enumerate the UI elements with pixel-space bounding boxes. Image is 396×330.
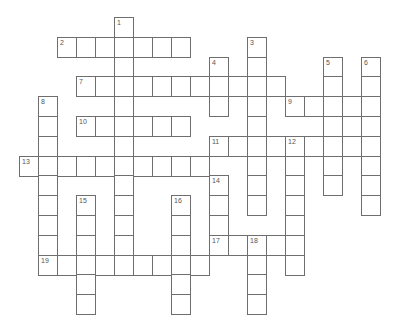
crossword-cell[interactable] xyxy=(76,37,96,58)
crossword-cell[interactable] xyxy=(285,255,305,276)
crossword-cell[interactable] xyxy=(209,76,229,97)
crossword-cell[interactable] xyxy=(285,215,305,236)
crossword-cell[interactable]: 15 xyxy=(76,195,96,216)
crossword-cell[interactable] xyxy=(76,274,96,295)
crossword-cell[interactable] xyxy=(38,116,58,137)
crossword-cell[interactable] xyxy=(361,136,381,157)
crossword-cell[interactable] xyxy=(266,235,286,256)
crossword-cell[interactable]: 16 xyxy=(171,195,191,216)
crossword-cell[interactable] xyxy=(133,156,153,177)
crossword-cell[interactable] xyxy=(152,255,172,276)
crossword-cell[interactable] xyxy=(76,215,96,236)
crossword-cell[interactable] xyxy=(76,235,96,256)
crossword-cell[interactable]: 8 xyxy=(38,96,58,117)
crossword-cell[interactable] xyxy=(133,116,153,137)
crossword-cell[interactable] xyxy=(114,96,134,117)
crossword-cell[interactable] xyxy=(38,175,58,196)
crossword-cell[interactable] xyxy=(38,195,58,216)
crossword-cell[interactable] xyxy=(171,116,191,137)
crossword-cell[interactable] xyxy=(95,76,115,97)
crossword-cell[interactable] xyxy=(190,156,210,177)
crossword-cell[interactable] xyxy=(285,195,305,216)
crossword-cell[interactable] xyxy=(171,294,191,315)
crossword-cell[interactable] xyxy=(133,37,153,58)
crossword-cell[interactable] xyxy=(323,76,343,97)
crossword-cell[interactable] xyxy=(190,76,210,97)
crossword-cell[interactable] xyxy=(171,37,191,58)
crossword-cell[interactable]: 9 xyxy=(285,96,305,117)
crossword-cell[interactable] xyxy=(152,156,172,177)
crossword-cell[interactable] xyxy=(114,116,134,137)
crossword-cell[interactable]: 3 xyxy=(247,37,267,58)
crossword-cell[interactable] xyxy=(133,76,153,97)
crossword-cell[interactable] xyxy=(171,215,191,236)
crossword-cell[interactable]: 18 xyxy=(247,235,267,256)
crossword-cell[interactable] xyxy=(171,274,191,295)
crossword-cell[interactable] xyxy=(323,116,343,137)
crossword-cell[interactable] xyxy=(114,235,134,256)
crossword-cell[interactable] xyxy=(247,195,267,216)
crossword-cell[interactable]: 17 xyxy=(209,235,229,256)
crossword-cell[interactable] xyxy=(361,156,381,177)
crossword-cell[interactable] xyxy=(152,76,172,97)
crossword-cell[interactable] xyxy=(114,136,134,157)
crossword-cell[interactable]: 14 xyxy=(209,175,229,196)
crossword-cell[interactable]: 5 xyxy=(323,57,343,78)
crossword-cell[interactable] xyxy=(76,255,96,276)
crossword-cell[interactable] xyxy=(304,136,324,157)
crossword-cell[interactable] xyxy=(114,255,134,276)
crossword-cell[interactable] xyxy=(323,136,343,157)
crossword-cell[interactable] xyxy=(95,116,115,137)
crossword-cell[interactable]: 10 xyxy=(76,116,96,137)
crossword-cell[interactable] xyxy=(114,37,134,58)
crossword-cell[interactable] xyxy=(57,156,77,177)
crossword-cell[interactable]: 4 xyxy=(209,57,229,78)
crossword-cell[interactable] xyxy=(171,76,191,97)
crossword-cell[interactable] xyxy=(171,235,191,256)
crossword-cell[interactable] xyxy=(38,156,58,177)
crossword-cell[interactable] xyxy=(285,175,305,196)
crossword-cell[interactable] xyxy=(361,96,381,117)
crossword-cell[interactable] xyxy=(285,235,305,256)
crossword-cell[interactable]: 7 xyxy=(76,76,96,97)
crossword-cell[interactable] xyxy=(76,156,96,177)
crossword-cell[interactable]: 6 xyxy=(361,57,381,78)
crossword-cell[interactable]: 19 xyxy=(38,255,58,276)
crossword-cell[interactable] xyxy=(247,136,267,157)
crossword-cell[interactable] xyxy=(361,175,381,196)
crossword-cell[interactable] xyxy=(171,156,191,177)
crossword-cell[interactable] xyxy=(152,37,172,58)
crossword-cell[interactable] xyxy=(266,76,286,97)
crossword-cell[interactable] xyxy=(247,116,267,137)
crossword-cell[interactable] xyxy=(114,156,134,177)
crossword-cell[interactable] xyxy=(38,215,58,236)
crossword-cell[interactable]: 12 xyxy=(285,136,305,157)
crossword-cell[interactable] xyxy=(95,156,115,177)
crossword-cell[interactable] xyxy=(114,76,134,97)
crossword-cell[interactable]: 11 xyxy=(209,136,229,157)
crossword-cell[interactable] xyxy=(114,57,134,78)
crossword-cell[interactable] xyxy=(361,116,381,137)
crossword-cell[interactable] xyxy=(95,255,115,276)
crossword-cell[interactable] xyxy=(266,136,286,157)
crossword-cell[interactable]: 2 xyxy=(57,37,77,58)
crossword-cell[interactable] xyxy=(38,235,58,256)
crossword-cell[interactable] xyxy=(209,215,229,236)
crossword-cell[interactable] xyxy=(95,37,115,58)
crossword-cell[interactable] xyxy=(285,156,305,177)
crossword-cell[interactable] xyxy=(228,136,248,157)
crossword-cell[interactable] xyxy=(57,255,77,276)
crossword-cell[interactable] xyxy=(228,76,248,97)
crossword-cell[interactable] xyxy=(133,255,153,276)
crossword-cell[interactable] xyxy=(114,175,134,196)
crossword-cell[interactable] xyxy=(209,195,229,216)
crossword-cell[interactable]: 13 xyxy=(19,156,39,177)
crossword-cell[interactable] xyxy=(323,156,343,177)
crossword-cell[interactable] xyxy=(209,96,229,117)
crossword-cell[interactable] xyxy=(247,76,267,97)
crossword-cell[interactable] xyxy=(247,255,267,276)
crossword-cell[interactable] xyxy=(247,274,267,295)
crossword-cell[interactable] xyxy=(171,255,191,276)
crossword-cell[interactable] xyxy=(323,175,343,196)
crossword-cell[interactable] xyxy=(228,235,248,256)
